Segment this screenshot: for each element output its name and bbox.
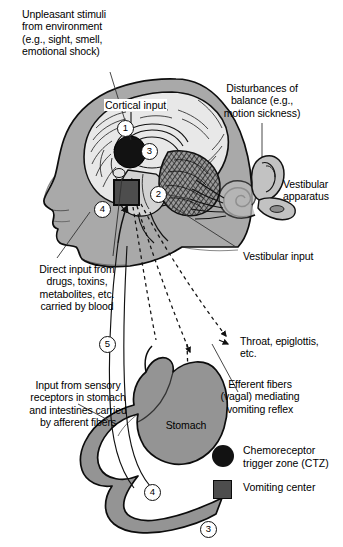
diagram-canvas: Unpleasant stimuli from environment (e.g… bbox=[0, 0, 343, 547]
marker-1: 1 bbox=[117, 120, 134, 137]
stomach-and-intestine bbox=[80, 346, 227, 533]
marker-5: 5 bbox=[99, 336, 116, 353]
label-vestibular-apparatus: Vestibular apparatus bbox=[283, 178, 341, 203]
legend-swatch-ctz-icon bbox=[212, 445, 234, 467]
legend-swatch-vomiting-center-icon bbox=[213, 480, 232, 499]
label-sensory-input: Input from sensory receptors in stomach … bbox=[14, 379, 142, 429]
legend-label-vomiting-center: Vomiting center bbox=[243, 481, 343, 494]
vomiting-center-square bbox=[114, 180, 139, 205]
label-direct-input: Direct input from drugs, toxins, metabol… bbox=[16, 263, 138, 313]
label-efferent-fibers: Efferent fibers (vagal) mediating vomiti… bbox=[205, 378, 315, 415]
label-throat-epiglottis: Throat, epiglottis, etc. bbox=[240, 335, 342, 360]
marker-2: 2 bbox=[150, 186, 167, 203]
label-vestibular-input: Vestibular input bbox=[243, 250, 338, 262]
marker-3: 3 bbox=[141, 143, 158, 160]
arrow-throat-epiglottis bbox=[219, 340, 228, 344]
label-stomach: Stomach bbox=[158, 419, 214, 431]
marker-4-duodenum: 4 bbox=[144, 484, 161, 501]
marker-3-intestine: 3 bbox=[200, 521, 217, 538]
marker-4: 4 bbox=[94, 201, 111, 218]
label-unpleasant-stimuli: Unpleasant stimuli from environment (e.g… bbox=[22, 8, 172, 58]
legend-label-ctz: Chemoreceptor trigger zone (CTZ) bbox=[243, 444, 343, 469]
label-cortical-input: Cortical input bbox=[104, 99, 167, 111]
label-disturbances-balance: Disturbances of balance (e.g., motion si… bbox=[212, 82, 312, 119]
